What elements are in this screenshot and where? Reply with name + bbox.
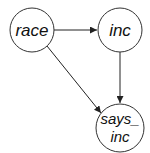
node-inc: inc: [98, 8, 142, 52]
node-inc-label: inc: [109, 21, 131, 40]
edge-race-to-says-inc: [47, 46, 101, 113]
node-race: race: [10, 8, 54, 52]
node-says-inc: says_ inc: [96, 104, 144, 152]
node-says-inc-label-line1: says_: [100, 110, 139, 127]
node-race-label: race: [15, 21, 48, 40]
causal-diagram: race inc says_ inc: [0, 0, 150, 153]
node-says-inc-label-line2: inc: [110, 128, 130, 145]
